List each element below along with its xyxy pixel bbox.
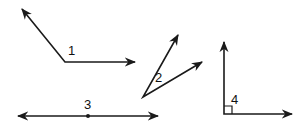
line-3: 3	[18, 97, 158, 118]
angles-diagram: 1 2 3 4	[0, 0, 308, 128]
angle-1-rays	[22, 9, 135, 62]
angle-4: 4	[224, 42, 292, 114]
angle-4-label: 4	[231, 92, 238, 107]
angle-2-label: 2	[155, 70, 162, 85]
line-3-vertex-point	[86, 114, 90, 118]
angle-2-rays	[143, 35, 202, 97]
right-angle-marker-icon	[224, 106, 232, 114]
angle-1-label: 1	[68, 43, 75, 58]
diagram-svg: 1 2 3 4	[0, 0, 308, 128]
angle-2: 2	[143, 35, 202, 97]
line-3-label: 3	[84, 97, 91, 112]
angle-1: 1	[22, 9, 135, 62]
